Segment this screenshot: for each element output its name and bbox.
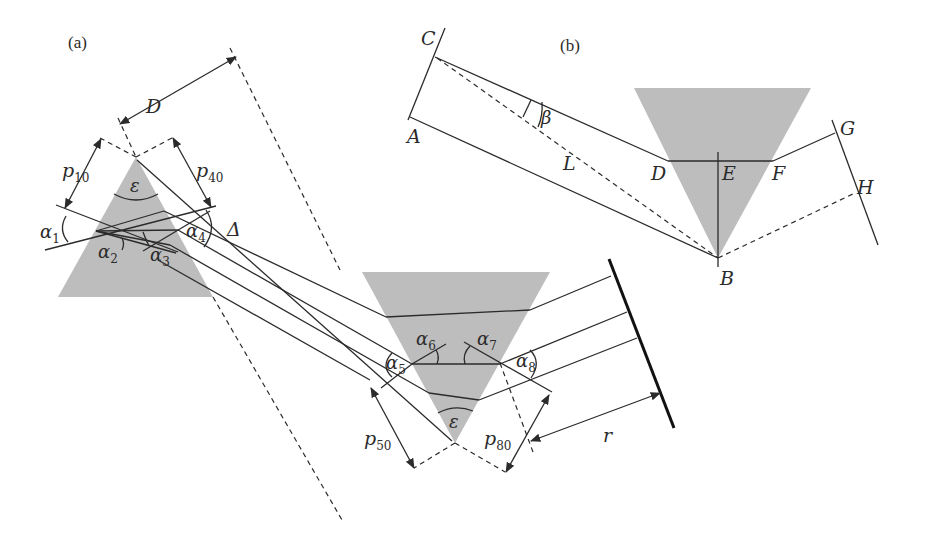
dash-p50-ref bbox=[414, 443, 455, 468]
label-alpha4: α4 bbox=[186, 220, 206, 245]
label-D-b: D bbox=[650, 162, 666, 184]
panel-b: (b) C A B D E F G H L β bbox=[405, 27, 878, 289]
panel-a: (a) bbox=[40, 33, 674, 520]
dimension-D bbox=[120, 57, 236, 124]
dash-D-right-upper bbox=[230, 48, 340, 270]
panel-a-label: (a) bbox=[68, 33, 87, 52]
label-E: E bbox=[721, 162, 736, 184]
label-C: C bbox=[421, 27, 436, 49]
mirror bbox=[609, 259, 674, 428]
prism-pair-diagram: (a) bbox=[0, 0, 935, 547]
label-epsilon-bottom: ε bbox=[449, 411, 459, 432]
ray-bottom bbox=[158, 260, 370, 380]
dimension-p50 bbox=[371, 388, 414, 468]
label-A: A bbox=[405, 125, 421, 147]
label-F: F bbox=[771, 162, 786, 184]
label-p50: p50 bbox=[364, 427, 391, 453]
ray-CD bbox=[435, 57, 668, 161]
label-p40: p40 bbox=[196, 159, 223, 185]
beta-marker bbox=[523, 100, 531, 117]
dimension-r bbox=[531, 393, 660, 441]
label-D: D bbox=[145, 95, 161, 117]
dash-p10-ref bbox=[100, 138, 136, 157]
dash-p40-ref bbox=[136, 138, 172, 157]
panel-b-label: (b) bbox=[560, 36, 580, 55]
label-p80: p80 bbox=[484, 427, 511, 453]
label-alpha1: α1 bbox=[40, 221, 60, 246]
label-B: B bbox=[719, 267, 734, 289]
label-r: r bbox=[603, 424, 614, 446]
dash-D-right-lower bbox=[213, 297, 342, 520]
label-epsilon-top: ε bbox=[130, 175, 140, 196]
label-G: G bbox=[840, 117, 855, 139]
label-L: L bbox=[562, 152, 576, 174]
alpha1-arc bbox=[62, 216, 68, 242]
label-beta: β bbox=[540, 107, 551, 128]
label-p10: p10 bbox=[62, 159, 89, 185]
label-delta: Δ bbox=[226, 218, 241, 240]
dimension-p80 bbox=[506, 395, 549, 472]
label-H: H bbox=[856, 176, 874, 198]
